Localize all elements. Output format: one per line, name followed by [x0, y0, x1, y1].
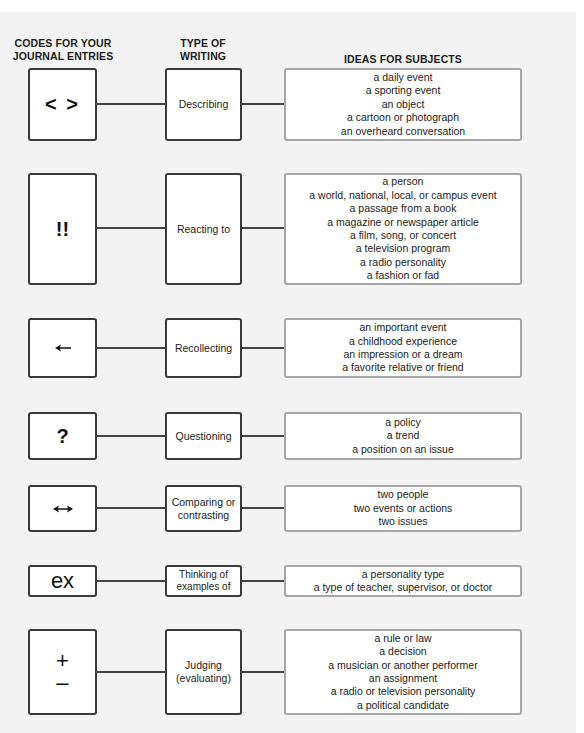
header-type-line2: WRITING: [158, 50, 248, 63]
connector: [242, 103, 284, 105]
type-label-line1: Comparing or: [172, 496, 236, 509]
type-label: Recollecting: [175, 342, 232, 355]
subject-item: a world, national, local, or campus even…: [309, 189, 496, 202]
subject-item: an assignment: [369, 672, 437, 685]
type-box: Comparing or contrasting: [165, 485, 242, 532]
type-box: Questioning: [165, 412, 242, 460]
minus-icon: –: [56, 672, 69, 694]
connector: [242, 227, 284, 229]
row-reacting: !! Reacting to a person a world, nationa…: [0, 173, 576, 285]
subjects-box: an important event a childhood experienc…: [284, 318, 522, 378]
subject-item: a cartoon or photograph: [347, 111, 459, 124]
header-codes-line1: CODES FOR YOUR: [10, 37, 116, 50]
subjects-box: a policy a trend a position on an issue: [284, 412, 522, 460]
subjects-box: two people two events or actions two iss…: [284, 485, 522, 532]
connector: [242, 580, 284, 582]
connector: [97, 103, 165, 105]
type-box: Judging (evaluating): [165, 629, 242, 715]
type-label-line2: (evaluating): [176, 672, 231, 685]
type-box: Describing: [165, 68, 242, 141]
code-box: [28, 485, 97, 532]
row-questioning: ? Questioning a policy a trend a positio…: [0, 412, 576, 460]
subject-item: a passage from a book: [350, 202, 457, 215]
header-ideas-text: IDEAS FOR SUBJECTS: [284, 53, 522, 66]
row-examples: ex Thinking of examples of a personality…: [0, 565, 576, 597]
subject-item: a type of teacher, supervisor, or doctor: [314, 581, 493, 594]
type-label-line1: Thinking of: [179, 569, 228, 581]
subjects-box: a person a world, national, local, or ca…: [284, 173, 522, 285]
ex-icon: ex: [51, 568, 74, 594]
subject-item: a person: [383, 175, 424, 188]
subjects-box: a personality type a type of teacher, su…: [284, 565, 522, 597]
subject-item: a position on an issue: [352, 443, 454, 456]
question-mark-icon: ?: [56, 425, 68, 448]
subject-item: an impression or a dream: [343, 348, 462, 361]
subject-item: a rule or law: [374, 632, 431, 645]
subject-item: a radio personality: [360, 256, 446, 269]
subject-item: a film, song, or concert: [350, 229, 456, 242]
connector: [97, 347, 165, 349]
code-box: !!: [28, 173, 97, 285]
row-recollecting: Recollecting an important event a childh…: [0, 318, 576, 378]
connector: [242, 347, 284, 349]
subject-item: a daily event: [374, 71, 433, 84]
double-exclamation-icon: !!: [56, 218, 69, 241]
subjects-box: a rule or law a decision a musician or a…: [284, 629, 522, 715]
connector: [242, 671, 284, 673]
type-box: Thinking of examples of: [165, 565, 242, 597]
left-right-arrow-icon: [53, 505, 73, 513]
subject-item: a political candidate: [357, 699, 449, 712]
subject-item: an object: [382, 98, 425, 111]
type-label: Describing: [179, 98, 229, 111]
code-box: ?: [28, 412, 97, 460]
code-box: + –: [28, 629, 97, 715]
subject-item: a radio or television personality: [331, 685, 476, 698]
subject-item: a decision: [379, 645, 426, 658]
subject-item: two issues: [378, 515, 427, 528]
type-box: Reacting to: [165, 173, 242, 285]
code-box: [28, 318, 97, 378]
type-label: Reacting to: [177, 223, 230, 236]
subject-item: an important event: [360, 321, 447, 334]
subject-item: a policy: [385, 416, 421, 429]
header-codes-line2: JOURNAL ENTRIES: [10, 50, 116, 63]
subject-item: a trend: [387, 429, 420, 442]
row-describing: < > Describing a daily event a sporting …: [0, 68, 576, 141]
left-arrow-icon: [55, 344, 71, 352]
header-codes: CODES FOR YOUR JOURNAL ENTRIES: [10, 37, 116, 63]
type-box: Recollecting: [165, 318, 242, 378]
connector: [97, 227, 165, 229]
header-type: TYPE OF WRITING: [158, 37, 248, 63]
row-comparing: Comparing or contrasting two people two …: [0, 485, 576, 532]
subject-item: a childhood experience: [349, 335, 457, 348]
row-judging: + – Judging (evaluating) a rule or law a…: [0, 629, 576, 715]
subject-item: a personality type: [362, 568, 444, 581]
type-label-line2: contrasting: [178, 509, 229, 522]
header-type-line1: TYPE OF: [158, 37, 248, 50]
plus-icon: +: [56, 650, 69, 672]
code-box: < >: [28, 68, 97, 141]
type-label-line1: Judging: [185, 659, 222, 672]
connector: [97, 507, 165, 509]
connector: [97, 580, 165, 582]
connector: [242, 435, 284, 437]
subjects-box: a daily event a sporting event an object…: [284, 68, 522, 141]
subject-item: a television program: [356, 242, 451, 255]
diagram-canvas: CODES FOR YOUR JOURNAL ENTRIES TYPE OF W…: [0, 12, 576, 733]
subject-item: a musician or another performer: [328, 659, 477, 672]
subject-item: a sporting event: [366, 84, 441, 97]
angle-brackets-icon: < >: [45, 93, 80, 116]
code-box: ex: [28, 565, 97, 597]
subject-item: a magazine or newspaper article: [327, 216, 479, 229]
header-ideas: IDEAS FOR SUBJECTS: [284, 53, 522, 66]
subject-item: an overheard conversation: [341, 125, 465, 138]
connector: [97, 435, 165, 437]
type-label: Questioning: [175, 430, 231, 443]
subject-item: two events or actions: [354, 502, 453, 515]
connector: [97, 671, 165, 673]
subject-item: two people: [378, 488, 429, 501]
subject-item: a favorite relative or friend: [342, 361, 463, 374]
type-label-line2: examples of: [177, 581, 231, 593]
plus-minus-icon: + –: [56, 650, 69, 694]
subject-item: a fashion or fad: [367, 269, 439, 282]
